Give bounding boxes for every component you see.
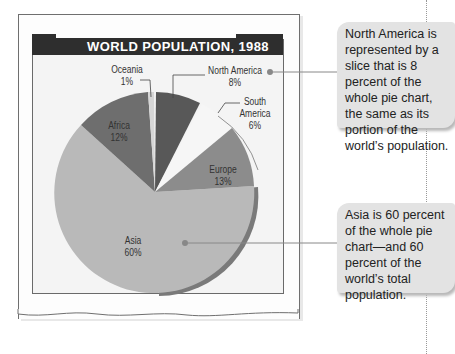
label-asia-name: Asia (112, 235, 155, 247)
label-africa: Africa 12% (98, 120, 141, 144)
label-north-america-pct: 8% (205, 77, 265, 89)
leader-north-america (173, 75, 205, 98)
label-north-america: North America 8% (205, 65, 265, 89)
label-south-america-name2: America (234, 108, 277, 120)
label-europe-pct: 13% (202, 176, 245, 188)
label-asia-pct: 60% (112, 247, 155, 259)
label-north-america-name: North America (205, 65, 265, 77)
label-south-america-name: South (234, 96, 277, 108)
label-oceania-pct: 1% (106, 76, 149, 88)
callout-north-america: North America is represented by a slice … (337, 22, 455, 128)
label-south-america-pct: 6% (234, 120, 277, 132)
label-europe: Europe 13% (202, 164, 245, 188)
label-asia: Asia 60% (112, 235, 155, 259)
label-south-america: South America 6% (234, 96, 277, 132)
label-africa-pct: 12% (98, 132, 141, 144)
label-oceania: Oceania 1% (106, 64, 149, 88)
label-oceania-name: Oceania (106, 64, 149, 76)
callout-asia: Asia is 60 percent of the whole pie char… (337, 203, 455, 293)
label-africa-name: Africa (98, 120, 141, 132)
label-europe-name: Europe (202, 164, 245, 176)
